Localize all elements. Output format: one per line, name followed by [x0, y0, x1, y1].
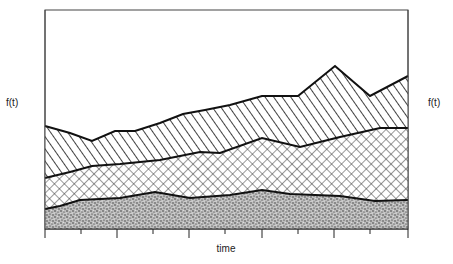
x-axis-ticks	[45, 229, 408, 238]
y-axis-label-right: f(t)	[428, 97, 440, 108]
x-axis-label: time	[217, 243, 236, 254]
y-axis-label-left: f(t)	[6, 97, 18, 108]
stacked-area-chart: f(t) f(t) time	[0, 0, 453, 264]
